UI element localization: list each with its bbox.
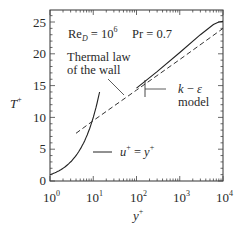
prandtl-number-label: Pr = 0.7: [132, 28, 172, 41]
x-tick-1e2: 102: [130, 191, 147, 204]
x-tick-1e3: 103: [173, 191, 190, 204]
re-eq: = 10: [88, 27, 114, 41]
ke-eps: ε: [197, 82, 202, 96]
thermal-law-leader-line: [108, 79, 124, 95]
thermal-law-label-line1: Thermal law: [67, 51, 131, 64]
thermal-law-dashed-line: [76, 28, 223, 133]
x-tick-base: 10: [130, 190, 143, 205]
x-tick-exp: 2: [143, 189, 147, 198]
re-base: Re: [68, 27, 82, 41]
x-tick-1e0: 100: [43, 191, 60, 204]
y-tick-20: 20: [24, 47, 46, 60]
y-axis-label: T+: [10, 97, 22, 110]
x-tick-exp: 1: [99, 189, 103, 198]
y-tick-15: 15: [24, 79, 46, 92]
y-tick-5: 5: [24, 142, 46, 155]
uplus-eq: =: [131, 145, 144, 159]
x-tick-base: 10: [43, 190, 56, 205]
k-epsilon-model-label: model: [178, 96, 209, 109]
re-exp: 6: [113, 25, 117, 34]
y-tick-25: 25: [24, 16, 46, 29]
k-epsilon-label: k − ε: [178, 83, 202, 96]
x-tick-1e4: 104: [216, 191, 233, 204]
y-tick-0: 0: [24, 174, 46, 187]
x-tick-1e1: 101: [86, 191, 103, 204]
uplus-equals-yplus-label: u+ = y+: [120, 146, 154, 159]
uplus-equals-yplus-curve: [50, 92, 100, 175]
x-tick-base: 10: [173, 190, 186, 205]
x-tick-base: 10: [216, 190, 229, 205]
x-tick-exp: 3: [186, 189, 190, 198]
uplus-sup2: +: [150, 143, 155, 152]
x-axis-label-sup: +: [139, 207, 144, 216]
y-axis-label-sup: +: [17, 95, 22, 104]
y-tick-10: 10: [24, 111, 46, 124]
x-tick-exp: 4: [229, 189, 233, 198]
x-tick-exp: 0: [56, 189, 60, 198]
thermal-law-label-line2: of the wall: [67, 64, 120, 77]
reynolds-number-label: ReD = 106: [68, 28, 117, 41]
x-tick-base: 10: [86, 190, 99, 205]
ke-dash: −: [184, 82, 197, 96]
x-axis-label: y+: [133, 209, 143, 222]
